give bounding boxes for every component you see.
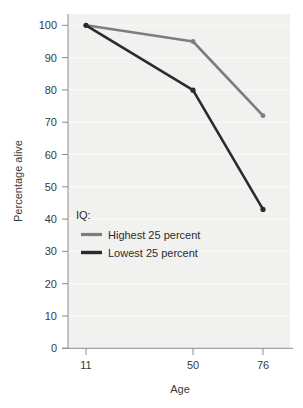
y-tick-marks bbox=[62, 25, 68, 348]
chart-figure: 100 90 80 70 60 50 40 30 20 10 0 11 50 7… bbox=[0, 0, 303, 408]
x-tick-labels: 11 50 76 bbox=[80, 359, 269, 371]
y-tick-label-40: 40 bbox=[45, 213, 57, 225]
y-tick-label-80: 80 bbox=[45, 84, 57, 96]
line-chart: 100 90 80 70 60 50 40 30 20 10 0 11 50 7… bbox=[0, 0, 303, 408]
x-tick-label-50: 50 bbox=[187, 359, 199, 371]
y-tick-label-100: 100 bbox=[39, 19, 57, 31]
y-tick-label-60: 60 bbox=[45, 149, 57, 161]
y-tick-label-70: 70 bbox=[45, 116, 57, 128]
y-tick-label-0: 0 bbox=[51, 342, 57, 354]
y-tick-labels: 100 90 80 70 60 50 40 30 20 10 0 bbox=[39, 19, 57, 354]
data-point-lowest-76 bbox=[260, 207, 265, 212]
y-axis-title: Percentage alive bbox=[12, 140, 24, 222]
y-tick-label-10: 10 bbox=[45, 310, 57, 322]
legend-title: IQ: bbox=[76, 209, 91, 221]
data-point-lowest-11 bbox=[83, 23, 88, 28]
plot-background bbox=[68, 14, 290, 348]
x-tick-marks bbox=[86, 348, 263, 355]
x-tick-label-76: 76 bbox=[257, 359, 269, 371]
legend-label-lowest: Lowest 25 percent bbox=[108, 247, 198, 259]
x-axis-title: Age bbox=[170, 383, 190, 395]
data-point-highest-50 bbox=[191, 39, 196, 44]
data-point-lowest-50 bbox=[190, 88, 195, 93]
data-point-highest-76 bbox=[261, 113, 266, 118]
legend-label-highest: Highest 25 percent bbox=[108, 229, 200, 241]
y-tick-label-20: 20 bbox=[45, 278, 57, 290]
y-tick-label-30: 30 bbox=[45, 245, 57, 257]
x-tick-label-11: 11 bbox=[80, 359, 91, 371]
y-tick-label-50: 50 bbox=[45, 181, 57, 193]
y-tick-label-90: 90 bbox=[45, 52, 57, 64]
